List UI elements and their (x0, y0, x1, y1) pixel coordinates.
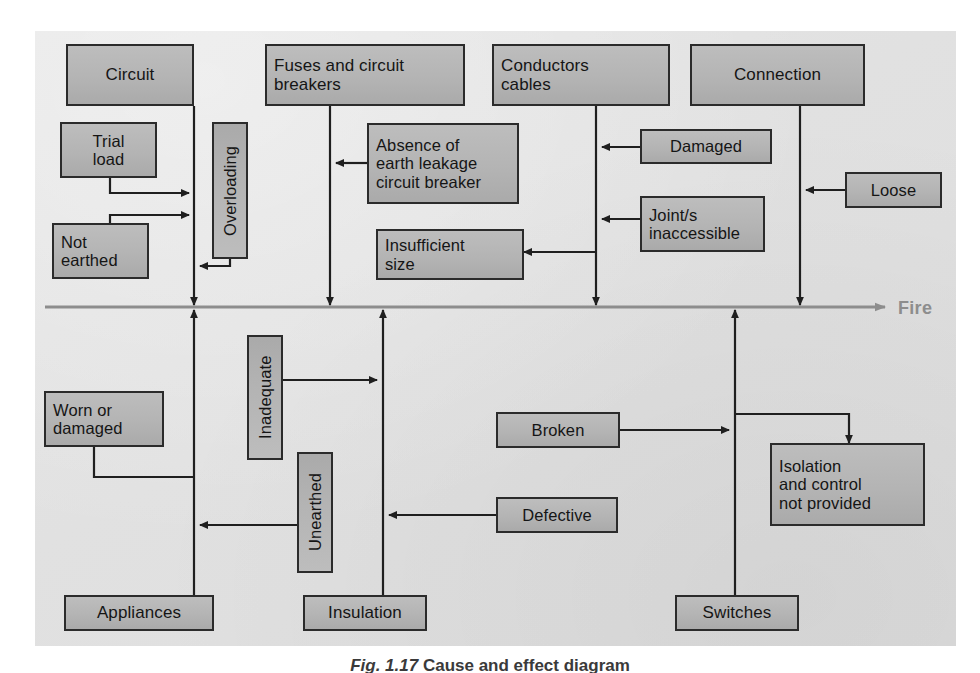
cause-joints-inaccessible[interactable]: Joint/s inaccessible (640, 196, 765, 252)
cause-inadequate[interactable]: Inadequate (247, 335, 283, 460)
figure-caption-text: Cause and effect diagram (423, 656, 630, 673)
cause-defective[interactable]: Defective (496, 497, 618, 533)
category-appliances[interactable]: Appliances (64, 595, 214, 631)
figure-caption-label: Fig. 1.17 (350, 656, 418, 673)
cause-insufficient-size[interactable]: Insufficient size (376, 229, 524, 280)
category-insulation[interactable]: Insulation (303, 595, 427, 631)
cause-isolation-and-control-not-provided[interactable]: Isolation and control not provided (770, 443, 925, 526)
category-switches[interactable]: Switches (675, 595, 799, 631)
effect-label: Fire (898, 298, 932, 319)
cause-absence-of-earth-leakage-circuit-breaker[interactable]: Absence of earth leakage circuit breaker (367, 123, 519, 204)
figure-caption: Fig. 1.17 Cause and effect diagram (0, 656, 980, 673)
cause-trial-load[interactable]: Trial load (60, 122, 157, 178)
cause-loose[interactable]: Loose (845, 172, 942, 208)
figure-page: Fire Circuit Fuses and circuit breakers … (0, 0, 980, 673)
category-conductors-cables[interactable]: Conductors cables (492, 44, 670, 106)
category-circuit[interactable]: Circuit (66, 44, 194, 106)
cause-broken[interactable]: Broken (496, 412, 620, 448)
cause-unearthed[interactable]: Unearthed (297, 452, 333, 573)
category-connection[interactable]: Connection (690, 44, 865, 106)
category-fuses-and-circuit-breakers[interactable]: Fuses and circuit breakers (265, 44, 465, 106)
cause-overloading[interactable]: Overloading (212, 122, 248, 259)
cause-damaged[interactable]: Damaged (640, 129, 772, 164)
cause-worn-or-damaged[interactable]: Worn or damaged (44, 391, 164, 447)
cause-not-earthed[interactable]: Not earthed (52, 223, 149, 279)
